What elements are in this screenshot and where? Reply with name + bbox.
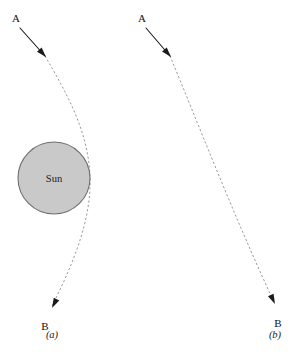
panel-a: Sun A B (a): [12, 12, 90, 341]
light-deflection-diagram: Sun A B (a) A B (b): [0, 0, 301, 355]
panel-b-ray-dashed-path: [170, 56, 274, 302]
panel-a-arrowhead-end: [52, 298, 59, 308]
panel-b-arrowhead-end: [268, 294, 275, 304]
panel-b-label-a: A: [138, 12, 146, 24]
panel-b-label-b: B: [274, 317, 281, 329]
panel-a-caption: (a): [46, 329, 59, 341]
sun-label: Sun: [46, 173, 63, 184]
panel-b-caption: (b): [269, 329, 282, 341]
panel-b: A B (b): [138, 12, 282, 341]
panel-a-label-a: A: [12, 12, 20, 24]
figure-root: Sun A B (a) A B (b): [0, 0, 301, 355]
